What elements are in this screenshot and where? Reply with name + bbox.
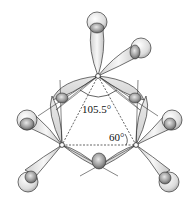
ch-bond-top-up xyxy=(87,12,107,76)
bond-angle-label: 105.5° xyxy=(82,103,111,115)
cyclopropane-orbital-diagram: 105.5° 60° xyxy=(0,0,195,206)
ch-bond-left-down xyxy=(18,145,62,192)
carbon-atom-left xyxy=(60,143,65,148)
carbon-atom-top xyxy=(96,74,101,79)
internuclear-angle-label: 60° xyxy=(109,131,124,143)
bond-angle-arc xyxy=(80,90,117,97)
carbon-atom-right xyxy=(134,143,139,148)
ch-bond-right-down xyxy=(136,145,179,192)
internuclear-angle-arc xyxy=(125,134,127,145)
ch-bond-top-right xyxy=(98,38,151,76)
